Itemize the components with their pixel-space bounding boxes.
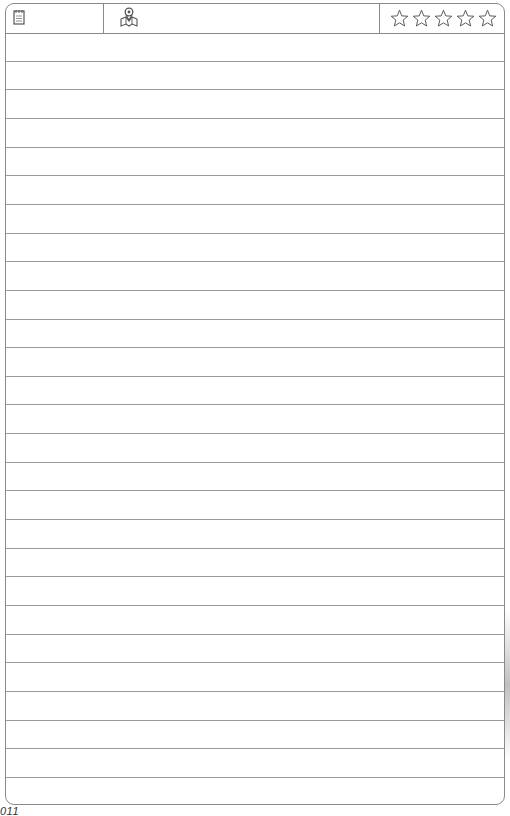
star-icon[interactable] <box>433 8 454 29</box>
ruled-line <box>6 376 504 377</box>
notepad-icon <box>13 9 25 25</box>
star-icon[interactable] <box>477 8 498 29</box>
location-pin-map-icon <box>120 7 138 27</box>
ruled-line <box>6 118 504 119</box>
star-rating[interactable] <box>389 8 498 29</box>
page-header <box>6 4 504 34</box>
ruled-line <box>6 691 504 692</box>
page-number: 011 <box>0 805 19 816</box>
star-icon[interactable] <box>455 8 476 29</box>
ruled-line <box>6 261 504 262</box>
ruled-line <box>6 433 504 434</box>
ruled-line <box>6 147 504 148</box>
ruled-line <box>6 548 504 549</box>
ruled-line <box>6 490 504 491</box>
ruled-line <box>6 662 504 663</box>
ruled-line <box>6 233 504 234</box>
ruled-line <box>6 347 504 348</box>
page-edge-shadow <box>505 610 510 760</box>
star-icon[interactable] <box>411 8 432 29</box>
ruled-line <box>6 290 504 291</box>
ruled-line <box>6 519 504 520</box>
ruled-line <box>6 89 504 90</box>
star-icon[interactable] <box>389 8 410 29</box>
ruled-line <box>6 605 504 606</box>
ruled-line <box>6 175 504 176</box>
location-cell <box>104 4 380 33</box>
ruled-line <box>6 720 504 721</box>
ruled-line <box>6 462 504 463</box>
notebook-page <box>5 3 505 805</box>
ruled-line <box>6 204 504 205</box>
ruled-line <box>6 777 504 778</box>
ruled-line <box>6 319 504 320</box>
ruled-line <box>6 61 504 62</box>
rating-cell <box>380 4 504 33</box>
ruled-line <box>6 576 504 577</box>
ruled-lines-area[interactable] <box>6 33 504 804</box>
ruled-line <box>6 748 504 749</box>
ruled-line <box>6 634 504 635</box>
notes-cell <box>6 4 104 33</box>
ruled-line <box>6 404 504 405</box>
